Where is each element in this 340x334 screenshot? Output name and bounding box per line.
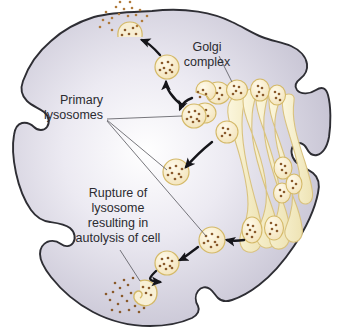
lysosome-diagram: Golgi complex Primary lysosomes Rupture … [0,0,340,334]
golgi-label-line1: Golgi [192,40,221,54]
golgi-label-line2: complex [184,55,231,69]
rupture-label-line2: lysosome [92,201,145,215]
primary-label-line1: Primary [60,93,104,107]
rupture-label-line3: resulting in [88,216,148,230]
figure-canvas: Golgi complex Primary lysosomes Rupture … [0,0,340,334]
rupture-label-line1: Rupture of [89,186,148,200]
rupture-label-line4: autolysis of cell [76,231,161,245]
primary-label-line2: lysosomes [44,108,103,122]
